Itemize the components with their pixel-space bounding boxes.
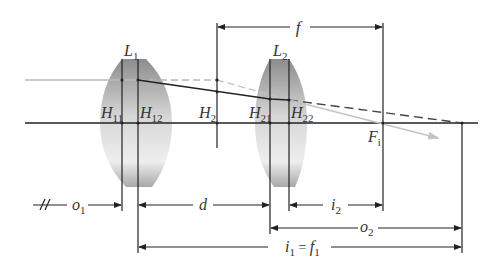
label-d: d	[199, 196, 208, 213]
label-i2: i2	[331, 196, 341, 216]
label-f: f	[296, 18, 303, 37]
label-o2: o2	[360, 218, 374, 238]
label-fi: Fi	[367, 128, 381, 148]
two-lens-diagram: f o1 d i2 o2 i1 = f1 L1 L2 H11 H12 H2 H2…	[0, 0, 499, 275]
label-i1-eq-f1: i1 = f1	[285, 238, 320, 258]
label-h2: H2	[198, 104, 216, 124]
dashed-ray-to-image	[289, 100, 462, 123]
label-o1: o1	[72, 196, 86, 216]
